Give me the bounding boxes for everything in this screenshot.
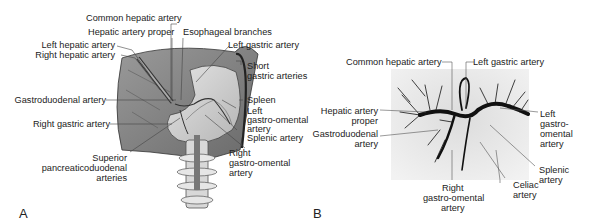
label-b-right-go-3: artery: [441, 203, 465, 213]
label-b-hepatic-proper-2: proper: [351, 116, 378, 126]
panel-a-illustration: [117, 46, 258, 208]
label-b-hepatic-proper-1: Hepatic artery: [321, 106, 378, 116]
panel-b-angiogram: [391, 69, 529, 180]
label-b-common-hepatic-artery: Common hepatic artery: [346, 57, 442, 67]
label-b-left-go-3: omental: [540, 129, 573, 139]
label-superior-pd-3: arteries: [96, 173, 127, 183]
label-b-gastroduodenal-1: Gastroduodenal: [313, 129, 378, 139]
label-spleen: Spleen: [247, 95, 276, 105]
label-b-celiac-2: artery: [513, 190, 537, 200]
label-b-gastroduodenal-2: artery: [355, 139, 379, 149]
label-hepatic-artery-proper: Hepatic artery proper: [88, 27, 174, 37]
label-b-left-go-4: artery: [540, 139, 564, 149]
label-right-gastro-omental-3: artery: [229, 168, 253, 178]
label-right-gastro-omental-2: gastro-omental: [229, 158, 290, 168]
label-b-left-go-2: gastro-: [540, 119, 569, 129]
label-esophageal-branches: Esophageal branches: [183, 27, 272, 37]
panel-letter-a: A: [19, 206, 28, 221]
label-gastroduodenal-artery: Gastroduodenal artery: [15, 95, 106, 105]
label-right-gastric-artery: Right gastric artery: [33, 119, 110, 129]
panel-letter-b: B: [313, 206, 322, 221]
label-right-hepatic-artery: Right hepatic artery: [35, 50, 115, 60]
label-b-right-go-1: Right: [442, 183, 463, 193]
label-left-gastric-artery: Left gastric artery: [228, 40, 299, 50]
label-b-splenic-2: artery: [539, 175, 563, 185]
label-right-gastro-omental-1: Right: [229, 148, 250, 158]
label-b-celiac-1: Celiac: [513, 180, 539, 190]
label-left-hepatic-artery: Left hepatic artery: [41, 40, 115, 50]
label-superior-pd-2: pancreaticoduodenal: [42, 163, 127, 173]
label-superior-pd-1: Superior: [92, 153, 127, 163]
label-short-gastric-arteries-1: Short: [247, 61, 269, 71]
label-b-left-gastric-artery: Left gastric artery: [473, 57, 544, 67]
label-b-splenic-1: Splenic: [539, 165, 569, 175]
label-common-hepatic-artery: Common hepatic artery: [86, 13, 182, 23]
label-b-right-go-2: gastro-omental: [423, 193, 484, 203]
label-b-left-go-1: Left: [540, 109, 555, 119]
label-short-gastric-arteries-2: gastric arteries: [247, 71, 307, 81]
label-splenic-artery: Splenic artery: [247, 133, 303, 143]
